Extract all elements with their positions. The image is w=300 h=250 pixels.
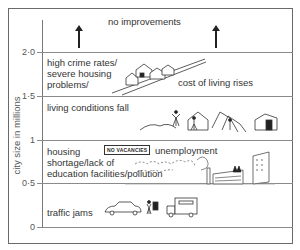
gridline-1-0 <box>37 140 293 141</box>
label-severe-housing: severe housing <box>47 68 111 79</box>
houses-road-illustration <box>110 55 210 95</box>
traffic-illustration <box>103 196 203 218</box>
slum-illustration <box>140 100 290 136</box>
tick-label-1-5: 1·5 <box>22 91 35 101</box>
label-housing: housing <box>47 146 80 157</box>
label-living-conditions: living conditions fall <box>47 102 129 113</box>
tick-label-1-0: 1 <box>30 135 35 145</box>
label-problems: problems/ <box>47 79 89 90</box>
gridline-0 <box>37 227 293 228</box>
tick-label-2-0: 2·0 <box>22 47 35 57</box>
tick-label-0-5: 0·5 <box>22 178 35 188</box>
label-traffic-jams: traffic jams <box>47 207 93 218</box>
up-arrow-icon <box>78 30 80 48</box>
tick-label-0: 0 <box>30 222 35 232</box>
gridline-2-0 <box>37 52 293 53</box>
gridline-1-5 <box>37 96 293 97</box>
label-shortage-lack-of: shortage/lack of <box>47 157 114 168</box>
y-axis-title: city size in millions <box>11 86 22 186</box>
factory-pollution-illustration <box>125 150 295 184</box>
up-arrow-icon <box>215 30 217 48</box>
label-no-improvements: no improvements <box>108 16 181 27</box>
label-high-crime: high crime rates/ <box>47 57 117 68</box>
